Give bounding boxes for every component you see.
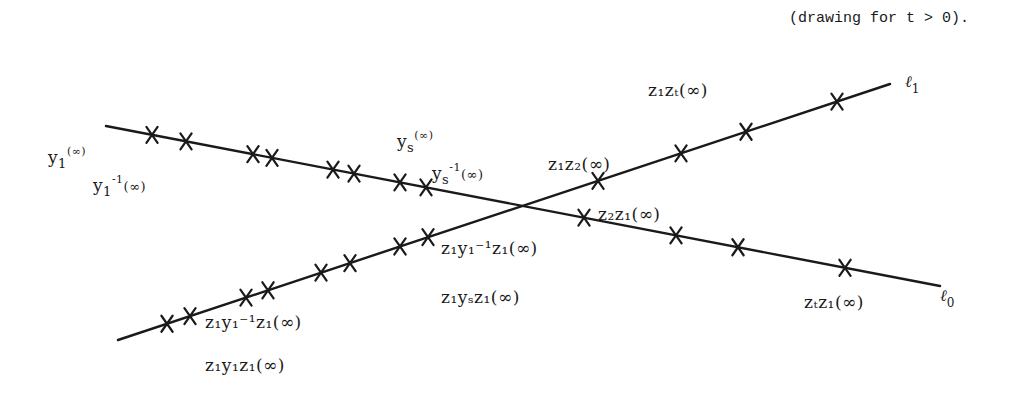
label-y1-inverse-sub: 1 [103, 184, 112, 199]
line-label-l1: ℓ1 [905, 72, 919, 96]
x-marker [315, 265, 326, 281]
x-marker [184, 308, 195, 324]
label-y1-tail: (∞) [67, 145, 86, 158]
x-marker [394, 238, 405, 254]
x-marker [675, 145, 686, 161]
label-y1-sub: 1 [58, 156, 67, 171]
line-label-l1-sub: 1 [912, 82, 920, 96]
label-z1ysz1: z₁yₛz₁(∞) [441, 289, 520, 306]
label-ys-inverse-sub: s [442, 172, 449, 187]
label-ys-tail: (∞) [414, 129, 433, 142]
label-ys: ys(∞) [397, 130, 434, 154]
label-ys-inverse-tail: (∞) [461, 167, 483, 182]
label-z1z2: z₁z₂(∞) [548, 156, 610, 173]
label-z1zt: z₁zₜ(∞) [648, 82, 708, 99]
label-ys-inverse: ys-1(∞) [432, 162, 483, 186]
label-y1: y1(∞) [48, 146, 86, 170]
x-marker [740, 124, 751, 140]
label-y1-inverse-tail: (∞) [124, 179, 146, 194]
label-ztz1: zₜz₁(∞) [804, 294, 864, 311]
x-marker [592, 173, 603, 189]
label-z1y1invz1-center: z₁y₁⁻¹z₁(∞) [441, 240, 538, 257]
lines-drawing [0, 0, 1023, 415]
label-ys-inverse-sup: -1 [449, 161, 461, 174]
line-label-l0-sub: 0 [947, 296, 955, 310]
x-marker [262, 282, 273, 298]
caption: (drawing for t > 0). [789, 10, 969, 27]
label-ys-sub: s [407, 140, 414, 155]
label-z1y1invz1-left: z₁y₁⁻¹z₁(∞) [205, 314, 302, 331]
line-label-l1-name: ℓ [905, 72, 912, 91]
x-marker [161, 316, 172, 332]
x-marker [240, 290, 251, 306]
diagram-canvas: (drawing for t > 0). ℓ1 ℓ0 y1(∞) y1-1(∞)… [0, 0, 1023, 415]
label-y1-inverse: y1-1(∞) [93, 174, 146, 198]
label-y1-base: y [48, 147, 58, 167]
label-ys-base: y [397, 131, 407, 151]
label-y1-inverse-sup: -1 [112, 173, 124, 186]
label-z2z1: z₂z₁(∞) [598, 206, 660, 223]
x-marker [422, 229, 433, 245]
label-y1-inverse-base: y [93, 175, 103, 195]
line-label-l0-name: ℓ [940, 286, 947, 305]
line-label-l0: ℓ0 [940, 286, 954, 310]
label-z1y1z1: z₁y₁z₁(∞) [205, 357, 285, 374]
label-ys-inverse-base: y [432, 163, 442, 183]
x-marker [344, 255, 355, 271]
x-marker [831, 94, 842, 110]
